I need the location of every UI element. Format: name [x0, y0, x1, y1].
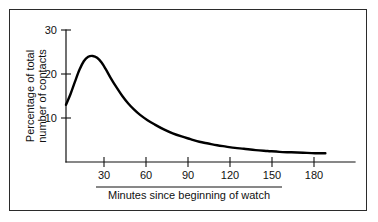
y-tick-label-30: 30: [45, 24, 57, 36]
y-axis-title-line1: Percentage of total: [24, 50, 36, 142]
x-axis-title: Minutes since beginning of watch: [108, 189, 270, 201]
x-tick-label-60: 60: [140, 169, 152, 181]
chart-canvas: 10 20 30 30 60 90 120 150 180 Minutes si…: [0, 0, 378, 222]
x-tick-label-180: 180: [305, 169, 323, 181]
x-tick-label-150: 150: [263, 169, 281, 181]
chart-figure: 10 20 30 30 60 90 120 150 180 Minutes si…: [0, 0, 378, 222]
data-curve-contacts: [66, 56, 325, 153]
y-axis-title-line2: number of contacts: [36, 49, 48, 143]
x-tick-label-120: 120: [221, 169, 239, 181]
x-tick-label-30: 30: [98, 169, 110, 181]
x-tick-label-90: 90: [182, 169, 194, 181]
